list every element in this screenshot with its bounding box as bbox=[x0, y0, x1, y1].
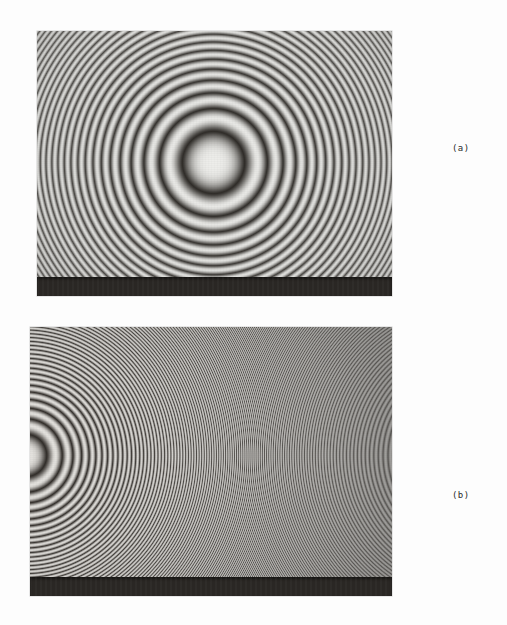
photo-panel-b bbox=[30, 327, 392, 596]
interference-fringe-pattern-b bbox=[30, 327, 392, 596]
panel-label-b: (b) bbox=[452, 490, 469, 500]
interference-fringe-pattern-a bbox=[37, 31, 392, 296]
photo-bottom-dark-band-b bbox=[30, 577, 392, 596]
panel-label-a: (a) bbox=[452, 143, 469, 153]
photo-panel-a bbox=[37, 31, 392, 296]
figure-sheet: (a) (b) bbox=[0, 0, 507, 625]
photo-bottom-dark-band-a bbox=[37, 277, 392, 296]
band-grain-a bbox=[37, 277, 392, 296]
band-grain-b bbox=[30, 577, 392, 596]
